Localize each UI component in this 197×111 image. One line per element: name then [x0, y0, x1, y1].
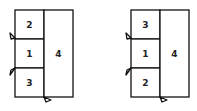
- diagram-canvas: 2 1 3 4 3 1 2 4: [0, 0, 197, 111]
- cell-label: 2: [26, 20, 32, 30]
- cell-label: 3: [26, 78, 32, 88]
- flag-marker-icon: [10, 68, 15, 75]
- left-layout: 2 1 3 4: [10, 10, 73, 102]
- right-layout: 3 1 2 4: [126, 10, 189, 102]
- cell-label: 2: [142, 78, 148, 88]
- flag-marker-icon: [126, 33, 131, 39]
- flag-marker-icon: [126, 68, 131, 75]
- cell-label: 1: [26, 49, 32, 59]
- flag-marker-icon: [160, 97, 167, 102]
- cell-label: 4: [55, 49, 61, 59]
- cell-label: 4: [171, 49, 177, 59]
- cell-label: 3: [142, 20, 148, 30]
- cell-label: 1: [142, 49, 148, 59]
- flag-marker-icon: [10, 33, 15, 39]
- flag-marker-icon: [44, 97, 51, 102]
